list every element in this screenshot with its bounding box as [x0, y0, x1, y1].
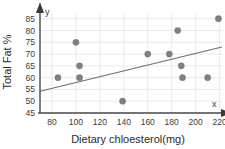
data-point — [179, 75, 185, 81]
y-tick-labels: 455055606570758085 — [26, 14, 36, 118]
axes — [36, 2, 225, 117]
y-axis-letter: y — [45, 7, 50, 17]
x-tick-label: 120 — [93, 117, 107, 127]
data-point — [166, 51, 172, 57]
gridlines — [40, 14, 222, 113]
data-point — [76, 63, 82, 69]
data-point — [178, 63, 184, 69]
x-tick-label: 180 — [165, 117, 179, 127]
x-axis-arrowhead — [221, 109, 225, 117]
data-point — [55, 75, 61, 81]
y-tick-label: 60 — [26, 73, 36, 83]
y-tick-label: 50 — [26, 96, 36, 106]
y-tick-label: 55 — [26, 84, 36, 94]
data-point — [215, 16, 221, 22]
x-tick-labels: 80100120140160180200220 — [47, 117, 225, 127]
x-tick-label: 80 — [47, 117, 57, 127]
y-tick-label: 80 — [26, 26, 36, 36]
data-point — [76, 75, 82, 81]
data-point — [145, 51, 151, 57]
data-point — [175, 27, 181, 33]
data-point — [120, 98, 126, 104]
y-tick-label: 75 — [26, 37, 36, 47]
data-point — [205, 75, 211, 81]
data-points — [55, 16, 222, 105]
trendline-group — [40, 47, 222, 91]
x-tick-label: 200 — [189, 117, 203, 127]
y-tick-label: 65 — [26, 61, 36, 71]
x-tick-label: 160 — [141, 117, 155, 127]
scatter-chart: 455055606570758085 801001201401601802002… — [0, 0, 225, 149]
x-axis-title: Dietary chloesterol(mg) — [71, 133, 185, 145]
x-tick-label: 220 — [213, 117, 225, 127]
y-tick-label: 85 — [26, 14, 36, 24]
y-tick-label: 45 — [26, 108, 36, 118]
chart-svg: 455055606570758085 801001201401601802002… — [0, 0, 225, 149]
y-axis-arrowhead — [36, 2, 44, 13]
x-axis-letter: x — [212, 99, 217, 109]
y-axis-title: Total Fat % — [1, 34, 13, 89]
data-point — [73, 39, 79, 45]
y-tick-label: 70 — [26, 49, 36, 59]
x-tick-label: 100 — [69, 117, 83, 127]
trend-line — [40, 47, 222, 91]
x-tick-label: 140 — [117, 117, 131, 127]
